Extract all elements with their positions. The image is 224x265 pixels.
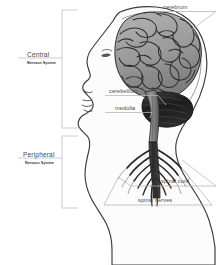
bracket-central <box>18 10 78 128</box>
label-central-sub: Nervous System <box>27 61 56 65</box>
label-spinal-cord: spinal cord <box>161 178 189 184</box>
label-cerebrum: cerebrum <box>163 4 187 10</box>
label-central: Central <box>27 51 49 58</box>
label-spinal-nerves: spinal nerves <box>138 197 172 203</box>
nervous-system-diagram: Central Nervous System Peripheral Nervou… <box>0 0 224 265</box>
diagram-illustration <box>0 0 224 265</box>
label-medulla: medulla <box>115 105 135 111</box>
bracket-peripheral <box>18 136 78 208</box>
label-peripheral: Peripheral <box>23 151 55 158</box>
label-cerebellum: cerebellum <box>109 88 137 94</box>
label-peripheral-sub: Nervous System <box>25 161 54 165</box>
